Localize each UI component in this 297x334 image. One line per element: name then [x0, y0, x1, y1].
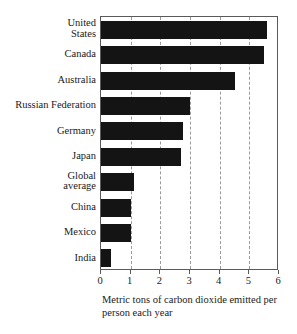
- category-axis-labels: UnitedStatesCanadaAustraliaRussian Feder…: [0, 16, 96, 270]
- category-label-australia: Australia: [0, 75, 96, 86]
- bar: [101, 224, 131, 242]
- bar-row: [101, 173, 279, 191]
- x-tick-mark-0: [100, 270, 101, 274]
- caption-line-2: person each year: [102, 307, 173, 318]
- category-label-line: India: [74, 252, 96, 263]
- category-label-line: Canada: [65, 48, 97, 59]
- category-label-line: Mexico: [64, 226, 96, 237]
- bar-row: [101, 148, 279, 166]
- category-label-line: China: [71, 201, 96, 212]
- bar: [101, 148, 181, 166]
- category-label-line: United: [67, 17, 96, 28]
- category-label-line: Japan: [72, 150, 96, 161]
- x-tick-label-0: 0: [90, 275, 110, 287]
- value-axis: 0123456: [100, 270, 278, 296]
- category-label-china: China: [0, 202, 96, 213]
- bar-row: [101, 249, 279, 267]
- x-tick-mark-6: [278, 270, 279, 274]
- co2-per-capita-bar-chart: UnitedStatesCanadaAustraliaRussian Feder…: [0, 0, 297, 334]
- category-label-mexico: Mexico: [0, 227, 96, 238]
- bar: [101, 72, 235, 90]
- category-label-united-states: UnitedStates: [0, 18, 96, 39]
- bar: [101, 97, 190, 115]
- category-label-line: Germany: [57, 125, 96, 136]
- bar: [101, 21, 267, 39]
- bar: [101, 122, 183, 140]
- bar-row: [101, 122, 279, 140]
- x-tick-label-2: 2: [149, 275, 169, 287]
- bars-layer: [101, 17, 277, 269]
- category-label-canada: Canada: [0, 49, 96, 60]
- x-tick-label-1: 1: [120, 275, 140, 287]
- x-tick-label-5: 5: [238, 275, 258, 287]
- bar-row: [101, 72, 279, 90]
- category-label-line: States: [0, 29, 96, 40]
- x-tick-mark-3: [189, 270, 190, 274]
- category-label-germany: Germany: [0, 126, 96, 137]
- bar-row: [101, 199, 279, 217]
- bar-row: [101, 224, 279, 242]
- x-tick-mark-1: [130, 270, 131, 274]
- x-tick-mark-2: [159, 270, 160, 274]
- x-tick-label-4: 4: [209, 275, 229, 287]
- category-label-global-average: Globalaverage: [0, 171, 96, 192]
- bar-row: [101, 21, 279, 39]
- bar: [101, 199, 131, 217]
- category-label-line: Australia: [58, 74, 97, 85]
- axis-caption: Metric tons of carbon dioxide emitted pe…: [102, 294, 292, 319]
- category-label-russian-federation: Russian Federation: [0, 100, 96, 111]
- category-label-japan: Japan: [0, 151, 96, 162]
- x-tick-label-3: 3: [179, 275, 199, 287]
- bar: [101, 249, 111, 267]
- x-tick-mark-4: [219, 270, 220, 274]
- bar: [101, 173, 134, 191]
- plot-area: [100, 16, 278, 270]
- caption-line-1: Metric tons of carbon dioxide emitted pe…: [102, 294, 277, 305]
- category-label-line: average: [0, 181, 96, 192]
- category-label-line: Global: [67, 170, 96, 181]
- bar-row: [101, 46, 279, 64]
- bar: [101, 46, 264, 64]
- category-label-india: India: [0, 253, 96, 264]
- category-label-line: Russian Federation: [15, 99, 96, 110]
- x-tick-label-6: 6: [268, 275, 288, 287]
- bar-row: [101, 97, 279, 115]
- x-tick-mark-5: [248, 270, 249, 274]
